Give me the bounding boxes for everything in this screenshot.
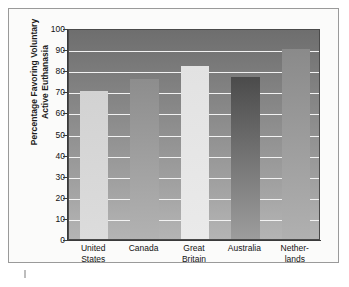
y-axis-tick-label: 70	[39, 88, 65, 97]
y-axis-tick-label: 100	[39, 25, 65, 34]
y-axis-tick-mark	[63, 71, 68, 72]
bar	[80, 91, 108, 239]
y-axis-tick-mark	[63, 156, 68, 157]
y-axis-tick-label: 0	[39, 236, 65, 245]
y-axis-tick-label: 40	[39, 151, 65, 160]
x-axis-category-label: Nether-lands	[270, 243, 320, 265]
y-axis-tick-mark	[63, 135, 68, 136]
y-axis-tick-label: 90	[39, 46, 65, 55]
y-axis-tick-mark	[63, 240, 68, 241]
y-axis-tick-mark	[63, 92, 68, 93]
y-axis-tick-labels: 0102030405060708090100	[39, 29, 65, 240]
x-axis-category-label-line: United	[68, 243, 118, 254]
figure-frame: Percentage Favoring Voluntary Active Eut…	[8, 8, 339, 263]
y-axis-tick-label: 60	[39, 109, 65, 118]
bar	[181, 66, 209, 239]
bar	[231, 77, 259, 239]
x-axis-category-label-line: lands	[270, 254, 320, 265]
x-axis-line	[67, 240, 321, 241]
y-axis-tick-label: 50	[39, 130, 65, 139]
y-axis-tick-mark	[63, 177, 68, 178]
y-axis-tick-mark	[63, 219, 68, 220]
x-axis-category-label: UnitedStates	[68, 243, 118, 265]
x-axis-category-label-line: Australia	[219, 243, 269, 254]
y-axis-tick-label: 10	[39, 214, 65, 223]
x-axis-category-label: Canada	[118, 243, 168, 254]
y-axis-tick-mark	[63, 113, 68, 114]
page-artifact-mark	[24, 270, 26, 278]
x-axis-category-label-line: Nether-	[270, 243, 320, 254]
y-axis-tick-mark	[63, 198, 68, 199]
y-axis-tick-label: 80	[39, 67, 65, 76]
x-axis-category-label-line: Canada	[118, 243, 168, 254]
y-axis-tick-label: 20	[39, 193, 65, 202]
plot-area	[68, 29, 320, 240]
x-axis-category-label: Australia	[219, 243, 269, 254]
x-axis-category-label: GreatBritain	[169, 243, 219, 265]
bar	[282, 49, 310, 239]
bar	[130, 79, 158, 239]
x-axis-category-label-line: Britain	[169, 254, 219, 265]
y-axis-tick-mark	[63, 50, 68, 51]
bar-chart: Percentage Favoring Voluntary Active Eut…	[9, 9, 340, 262]
figure-page: Percentage Favoring Voluntary Active Eut…	[0, 0, 349, 287]
x-axis-category-label-line: Great	[169, 243, 219, 254]
x-axis-category-labels: UnitedStatesCanadaGreatBritainAustraliaN…	[68, 243, 320, 269]
y-axis-tick-mark	[63, 29, 68, 30]
y-axis-tick-label: 30	[39, 172, 65, 181]
bar-series	[69, 30, 319, 239]
x-axis-category-label-line: States	[68, 254, 118, 265]
